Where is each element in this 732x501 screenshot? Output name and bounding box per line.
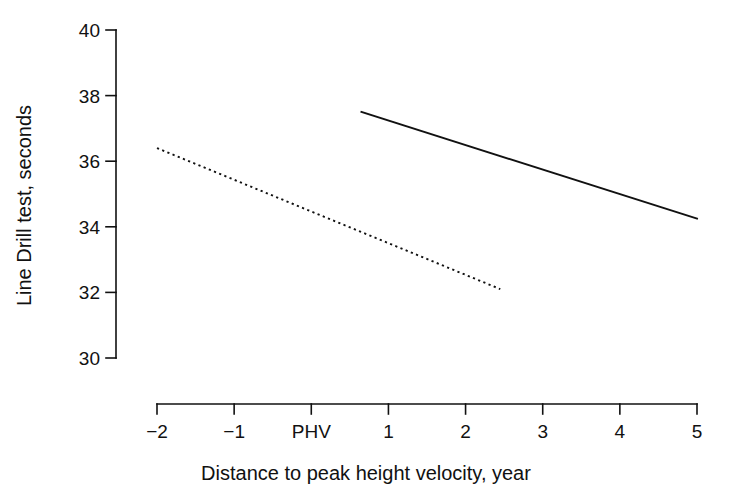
x-tick-label: −1 xyxy=(223,422,245,441)
x-axis-spine xyxy=(157,404,697,414)
y-tick-label: 40 xyxy=(60,21,100,40)
x-tick-label: 3 xyxy=(537,422,548,441)
x-axis-title: Distance to peak height velocity, year xyxy=(0,462,732,485)
x-tick-label: 4 xyxy=(615,422,626,441)
x-tick-label: 5 xyxy=(692,422,703,441)
chart-figure: 303234363840 −2−1PHV12345 Distance to pe… xyxy=(0,0,732,501)
dotted-line xyxy=(157,148,500,289)
y-tick-label: 38 xyxy=(60,86,100,105)
x-tick-label: PHV xyxy=(292,422,331,441)
y-axis-spine xyxy=(106,30,116,358)
y-tick-label: 34 xyxy=(60,217,100,236)
y-tick-label: 36 xyxy=(60,152,100,171)
x-tick-label: 2 xyxy=(460,422,471,441)
y-axis-title: Line Drill test, seconds xyxy=(13,36,36,376)
data-series-group xyxy=(157,112,697,289)
y-tick-label: 32 xyxy=(60,283,100,302)
solid-line xyxy=(361,112,697,219)
y-tick-label: 30 xyxy=(60,349,100,368)
x-tick-label: 1 xyxy=(383,422,394,441)
x-tick-label: −2 xyxy=(146,422,168,441)
